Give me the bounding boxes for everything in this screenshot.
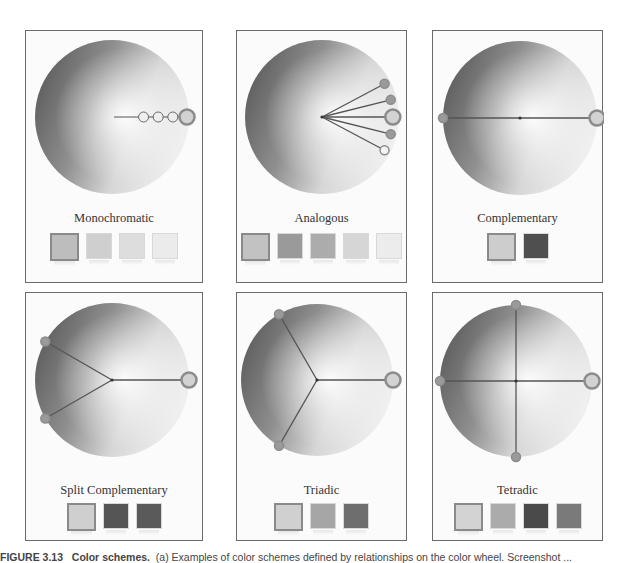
color-swatch[interactable]: [490, 503, 516, 529]
harmony-marker[interactable]: [512, 453, 521, 462]
color-swatch[interactable]: [376, 233, 402, 259]
color-swatch[interactable]: [277, 233, 303, 259]
color-swatch[interactable]: [103, 503, 129, 529]
color-swatch[interactable]: [454, 503, 483, 531]
caption-label: FIGURE 3.13: [0, 551, 63, 563]
swatch-row: [26, 233, 202, 261]
harmony-marker[interactable]: [436, 377, 445, 386]
scheme-title: Tetradic: [433, 483, 602, 498]
harmony-marker[interactable]: [275, 441, 284, 450]
swatch-row: [433, 503, 602, 531]
panel-analogous: Analogous: [236, 30, 407, 283]
color-swatch[interactable]: [67, 503, 96, 531]
color-swatch[interactable]: [119, 233, 145, 259]
harmony-marker[interactable]: [439, 114, 448, 123]
scheme-title: Analogous: [237, 211, 406, 226]
harmony-marker[interactable]: [386, 95, 395, 104]
color-swatch[interactable]: [487, 233, 516, 261]
color-wheel: [433, 293, 604, 488]
base-color-marker[interactable]: [385, 110, 400, 125]
harmony-marker[interactable]: [275, 310, 284, 319]
panel-monochromatic: Monochromatic: [25, 30, 203, 283]
color-swatch[interactable]: [152, 233, 178, 259]
swatch-row: [26, 503, 202, 531]
color-swatch[interactable]: [343, 233, 369, 259]
base-color-marker[interactable]: [182, 373, 197, 388]
panel-complementary: Complementary: [432, 30, 603, 283]
swatch-row: [237, 503, 406, 531]
base-color-marker[interactable]: [180, 110, 195, 125]
base-color-marker[interactable]: [386, 373, 401, 388]
base-color-marker[interactable]: [590, 111, 605, 126]
caption-text: (a) Examples of color schemes defined by…: [156, 551, 572, 563]
harmony-marker[interactable]: [41, 337, 50, 346]
harmony-marker[interactable]: [41, 414, 50, 423]
scheme-title: Triadic: [237, 483, 406, 498]
base-color-marker[interactable]: [585, 374, 600, 389]
swatch-row: [237, 233, 406, 261]
color-wheel: [26, 31, 204, 231]
color-wheel: [433, 31, 604, 231]
panel-triadic: Triadic: [236, 292, 407, 541]
shade-marker[interactable]: [153, 112, 163, 122]
color-wheel: [26, 293, 204, 488]
color-swatch[interactable]: [523, 503, 549, 529]
caption-title: Color schemes.: [72, 551, 150, 563]
shade-marker[interactable]: [168, 112, 178, 122]
color-swatch[interactable]: [136, 503, 162, 529]
color-swatch[interactable]: [556, 503, 582, 529]
scheme-title: Monochromatic: [26, 211, 202, 226]
color-wheel: [237, 31, 408, 231]
color-swatch[interactable]: [310, 233, 336, 259]
scheme-title: Complementary: [433, 211, 602, 226]
harmony-marker[interactable]: [512, 301, 521, 310]
panel-tetradic: Tetradic: [432, 292, 603, 541]
harmony-marker[interactable]: [380, 146, 389, 155]
scheme-title: Split Complementary: [26, 483, 202, 498]
color-swatch[interactable]: [274, 503, 303, 531]
color-swatch[interactable]: [343, 503, 369, 529]
color-wheel: [237, 293, 408, 488]
harmony-marker[interactable]: [386, 130, 395, 139]
color-swatch[interactable]: [50, 233, 79, 261]
color-swatch[interactable]: [523, 233, 549, 259]
swatch-row: [433, 233, 602, 261]
shade-marker[interactable]: [139, 112, 149, 122]
color-swatch[interactable]: [310, 503, 336, 529]
figure-caption: FIGURE 3.13 Color schemes. (a) Examples …: [0, 551, 627, 563]
color-swatch[interactable]: [86, 233, 112, 259]
harmony-marker[interactable]: [380, 79, 389, 88]
color-swatch[interactable]: [241, 233, 270, 261]
panel-split-complementary: Split Complementary: [25, 292, 203, 541]
